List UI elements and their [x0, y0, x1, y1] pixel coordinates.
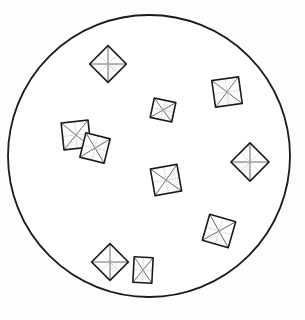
crystal-center-square — [150, 164, 181, 195]
figure-root — [0, 0, 305, 320]
crystal-upper-right-square — [212, 77, 242, 107]
crystal-bottom-small-rectangle — [133, 257, 153, 284]
crystal-left-pair-lower — [80, 133, 110, 163]
crystal-upper-center-square — [150, 98, 176, 122]
crystal-field-figure — [0, 0, 305, 320]
